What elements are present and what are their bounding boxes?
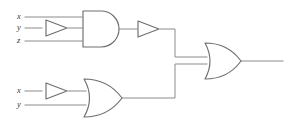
input-label-bottom-x: x bbox=[17, 86, 21, 95]
input-label-top-x: x bbox=[17, 12, 21, 21]
wire-bottom-to-final-or bbox=[122, 64, 207, 98]
buffer-top-y-icon bbox=[46, 20, 67, 36]
buffer-bottom-x-icon bbox=[46, 83, 67, 99]
and-gate-top-icon bbox=[83, 11, 119, 47]
logic-circuit-diagram: x y z x y bbox=[0, 0, 288, 124]
or-gate-final-icon bbox=[205, 43, 241, 79]
buffer-top-output-icon bbox=[138, 21, 159, 37]
input-label-top-y: y bbox=[17, 23, 21, 32]
circuit-svg bbox=[0, 0, 288, 124]
input-label-top-z: z bbox=[17, 36, 20, 45]
or-gate-bottom-icon bbox=[84, 79, 122, 117]
wire-top-to-final-or bbox=[160, 29, 207, 57]
input-label-bottom-y: y bbox=[17, 100, 21, 109]
